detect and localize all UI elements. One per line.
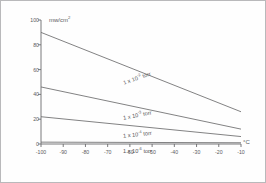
- x-tick-label: -80: [75, 149, 95, 155]
- x-tick-label: -70: [98, 149, 118, 155]
- x-axis-unit-label: °C: [243, 139, 250, 145]
- x-tick-label: -30: [187, 149, 207, 155]
- y-axis-unit-label: mw/cm2: [49, 15, 70, 23]
- chart-plot-area: 020406080100 -100-90-80-70-60-50-40-30-2…: [19, 12, 251, 170]
- x-tick-label: -10: [231, 149, 251, 155]
- y-tick-label: 100: [19, 17, 39, 23]
- x-tick-label: -20: [209, 149, 229, 155]
- x-tick-label: -100: [31, 149, 51, 155]
- y-tick-label: 0: [19, 141, 39, 147]
- x-tick-label: -90: [53, 149, 73, 155]
- series-label-suffix: torr: [143, 130, 152, 137]
- series-label-exponent: -4: [138, 129, 142, 134]
- series-label-exponent: -3: [137, 109, 141, 115]
- series-label-prefix: 1 x 10: [123, 148, 138, 154]
- series-line: [41, 142, 241, 143]
- series-lines: [41, 32, 241, 142]
- series-line: [41, 87, 241, 129]
- y-tick-label: 40: [19, 91, 39, 97]
- figure-border: 020406080100 -100-90-80-70-60-50-40-30-2…: [0, 0, 266, 183]
- x-tick-label: -40: [164, 149, 184, 155]
- y-tick-label: 20: [19, 116, 39, 122]
- y-tick-label: 60: [19, 67, 39, 73]
- series-label-suffix: torr: [143, 148, 151, 154]
- series-label: 1 x 10-6 torr: [123, 146, 152, 154]
- series-label-exponent: -6: [138, 146, 142, 151]
- y-tick-label: 80: [19, 42, 39, 48]
